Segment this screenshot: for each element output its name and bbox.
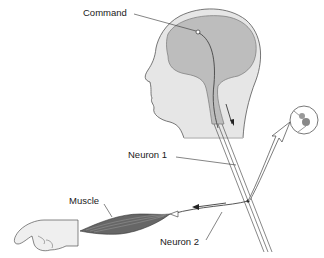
- hand: [14, 220, 78, 251]
- callout-pointer: [248, 122, 290, 201]
- neuron-2-axon: [172, 201, 248, 214]
- diagram-illustration: [0, 0, 324, 258]
- muscle: [80, 214, 170, 234]
- spinal-cord: [214, 124, 272, 252]
- motor-pathway-diagram: Command Neuron 1 Muscle Neuron 2: [0, 0, 324, 258]
- label-neuron-2: Neuron 2: [160, 237, 199, 247]
- label-neuron-1: Neuron 1: [128, 150, 167, 160]
- label-muscle: Muscle: [69, 196, 99, 206]
- label-command: Command: [83, 8, 127, 18]
- axon-terminal: [170, 211, 178, 217]
